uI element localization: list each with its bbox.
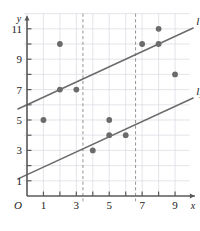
x-axis-tick-label: 7 (139, 199, 145, 211)
data-point (73, 87, 79, 93)
y-axis-tick-label: 5 (17, 114, 23, 126)
y-axis-label: y (16, 13, 22, 24)
plot-canvas: 135791357911Oxyl1l2 (0, 0, 200, 231)
data-point (139, 41, 145, 47)
data-point (90, 148, 96, 154)
x-axis-arrowhead (190, 193, 195, 198)
y-axis-tick-label: 9 (17, 53, 23, 65)
y-axis-tick-label: 7 (17, 84, 23, 96)
y-axis-tick-label: 11 (11, 23, 22, 35)
origin-label: O (14, 199, 22, 211)
line-label-l2: l2 (196, 85, 200, 99)
fit-line-l1 (18, 28, 193, 109)
y-axis-arrowhead (24, 16, 29, 21)
data-point (57, 87, 63, 93)
x-axis-label: x (190, 200, 196, 211)
y-axis-tick-label: 3 (17, 144, 23, 156)
data-point (156, 26, 162, 32)
data-point (106, 132, 112, 138)
data-point (57, 41, 63, 47)
y-axis-tick-label: 1 (17, 175, 23, 187)
data-point (123, 132, 129, 138)
data-point (106, 117, 112, 123)
x-axis-tick-label: 1 (41, 199, 47, 211)
x-axis-tick-label: 9 (172, 199, 178, 211)
data-point (156, 41, 162, 47)
data-point (172, 72, 178, 78)
fit-line-l2 (18, 98, 193, 179)
scatter-plot-figure: 135791357911Oxyl1l2 (0, 0, 200, 231)
x-axis-tick-label: 5 (107, 199, 113, 211)
line-label-l1: l1 (196, 15, 200, 29)
x-axis-tick-label: 3 (74, 199, 80, 211)
data-point (41, 117, 47, 123)
